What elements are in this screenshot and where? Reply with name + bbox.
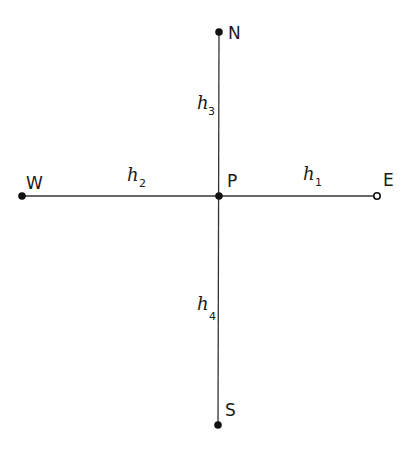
- label-w: W: [26, 173, 43, 193]
- segment-n-s: [218, 32, 219, 425]
- label-h1-sub: 1: [315, 176, 322, 189]
- label-h4-sub: 4: [209, 310, 216, 323]
- point-p: [215, 192, 223, 200]
- point-w: [18, 192, 26, 200]
- label-h3: h: [197, 92, 209, 113]
- point-s: [214, 421, 222, 429]
- label-s: S: [225, 400, 236, 420]
- label-h1: h: [303, 163, 315, 184]
- label-h4: h: [197, 293, 209, 314]
- point-e: [374, 193, 380, 199]
- point-n: [215, 28, 223, 36]
- grid-diagram: N W P E S h 1 h 2 h 3 h 4: [0, 0, 411, 453]
- label-h2: h: [127, 164, 139, 185]
- label-h3-sub: 3: [208, 105, 215, 118]
- label-h2-sub: 2: [139, 177, 146, 190]
- label-n: N: [228, 23, 241, 43]
- label-e: E: [383, 170, 394, 190]
- label-p: P: [227, 171, 237, 191]
